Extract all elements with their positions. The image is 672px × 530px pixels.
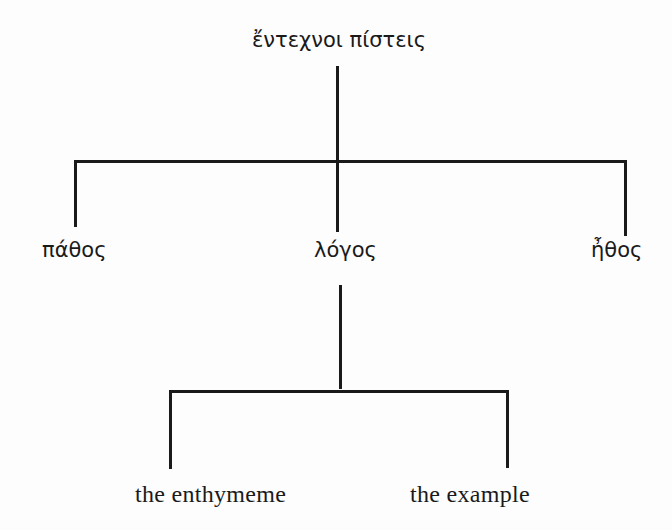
connector-logos-stem [339, 285, 342, 389]
node-ethos: ἦθος [591, 240, 642, 261]
connector-root-stem [336, 66, 339, 162]
connector-logos [336, 160, 339, 232]
connector-level1-bar [74, 160, 627, 163]
connector-ethos [624, 161, 627, 236]
node-the-example: the example [410, 482, 530, 506]
connector-pathos [74, 160, 77, 227]
connector-example [506, 390, 509, 468]
node-pathos: πάθος [42, 240, 107, 261]
node-logos: λόγος [314, 240, 377, 261]
connector-level2-bar [169, 390, 509, 393]
node-entechnoi-pisteis: ἔντεχνοι πίστεις [252, 30, 426, 51]
connector-enthymeme [169, 390, 172, 469]
node-the-enthymeme: the enthymeme [135, 482, 286, 506]
